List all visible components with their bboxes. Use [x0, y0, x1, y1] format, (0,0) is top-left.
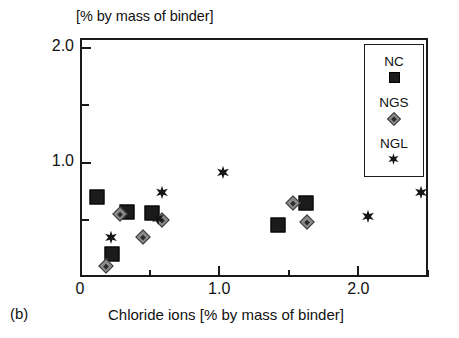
y-tick-minor [80, 219, 89, 221]
legend-entry-ngs: NGS [379, 96, 408, 125]
x-tick-label: 1.0 [208, 280, 230, 298]
legend-marker-square-icon [389, 71, 400, 84]
data-point-ngl [414, 186, 429, 201]
legend-box: NC NGS NGL [364, 44, 424, 177]
data-point-ngl [103, 231, 118, 246]
data-point-nc [270, 218, 285, 233]
y-tick-major [80, 47, 91, 49]
legend-label-ngl: NGL [380, 137, 408, 151]
data-point-ngl [216, 165, 231, 180]
legend-label-nc: NC [384, 55, 404, 69]
y-tick-major [80, 162, 91, 164]
x-tick-minor [288, 270, 290, 277]
legend-marker-diamond-icon [389, 112, 399, 125]
x-tick-minor [149, 270, 151, 277]
data-point-ngl [361, 210, 376, 225]
figure-panel-b: [% by mass of binder] Adsorbed chlorides… [0, 0, 459, 338]
x-tick-major [218, 266, 220, 277]
x-tick-minor [427, 270, 429, 277]
legend-entry-nc: NC [384, 55, 404, 84]
legend-label-ngs: NGS [379, 96, 408, 110]
panel-tag: (b) [10, 305, 28, 322]
data-point-nc [89, 189, 104, 204]
x-axis-label: Chloride ions [% by mass of binder] [108, 306, 344, 323]
x-tick-label: 0 [76, 280, 85, 298]
legend-entry-ngl: NGL [380, 137, 408, 166]
x-tick-major [357, 266, 359, 277]
y-tick-label: 2.0 [52, 37, 74, 55]
data-point-ngl [155, 186, 170, 201]
x-tick-label: 2.0 [347, 280, 369, 298]
y-tick-minor [80, 104, 89, 106]
y-tick-label: 1.0 [52, 152, 74, 170]
legend-marker-star-icon [387, 153, 400, 166]
data-point-ngl [150, 211, 165, 226]
